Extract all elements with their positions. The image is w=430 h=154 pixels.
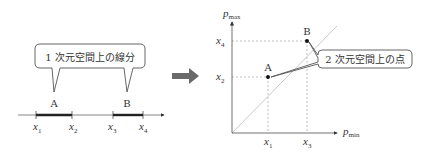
tick-label-x4: x4 [138, 120, 148, 135]
tick-label-x3: x3 [107, 120, 117, 135]
y-tick-x2: x2 [215, 70, 225, 85]
x-tick-x1: x1 [263, 135, 273, 150]
point-a [266, 75, 270, 79]
point-a-label: A [263, 62, 272, 73]
callout-text-2d: 2 次元空間上の点 [325, 53, 405, 65]
tick-label-x1: x1 [32, 120, 42, 135]
x-tick-x3: x3 [302, 135, 312, 150]
segment-b-label: B [123, 98, 130, 109]
y-axis-label: pmax [222, 7, 241, 21]
left-panel: 1 次元空間上の線分 A B x1 x2 x3 x4 [18, 44, 164, 135]
tick-label-x2: x2 [68, 120, 78, 135]
right-arrow-icon [172, 68, 199, 84]
x-axis-label: pmin [342, 125, 360, 139]
diagram-canvas: 1 次元空間上の線分 A B x1 x2 x3 x4 [0, 0, 430, 154]
diagonal-line [232, 26, 337, 133]
segment-a-label: A [49, 98, 58, 109]
point-b-label: B [303, 26, 310, 37]
point-b [305, 39, 309, 43]
callout-text-1d: 1 次元空間上の線分 [45, 51, 135, 63]
y-tick-x4: x4 [215, 34, 225, 49]
right-panel: pmax pmin x4 x2 x1 x3 2 次元空間上の点 B A [215, 7, 412, 150]
guide-lines [232, 41, 307, 133]
